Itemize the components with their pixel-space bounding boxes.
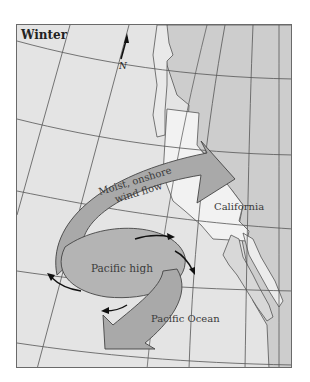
pacific-high-label: Pacific high bbox=[91, 262, 153, 274]
california-label: California bbox=[214, 201, 264, 212]
arrowhead-southeast bbox=[189, 267, 195, 275]
arrowhead-west-2 bbox=[101, 307, 109, 314]
north-arrow-icon bbox=[121, 33, 129, 59]
map-title: Winter bbox=[21, 28, 67, 42]
pacific-ocean-label: Pacific Ocean bbox=[151, 313, 220, 324]
north-label: N bbox=[119, 61, 127, 71]
map-frame: Winter N California Pacific high Pacific… bbox=[16, 24, 292, 368]
